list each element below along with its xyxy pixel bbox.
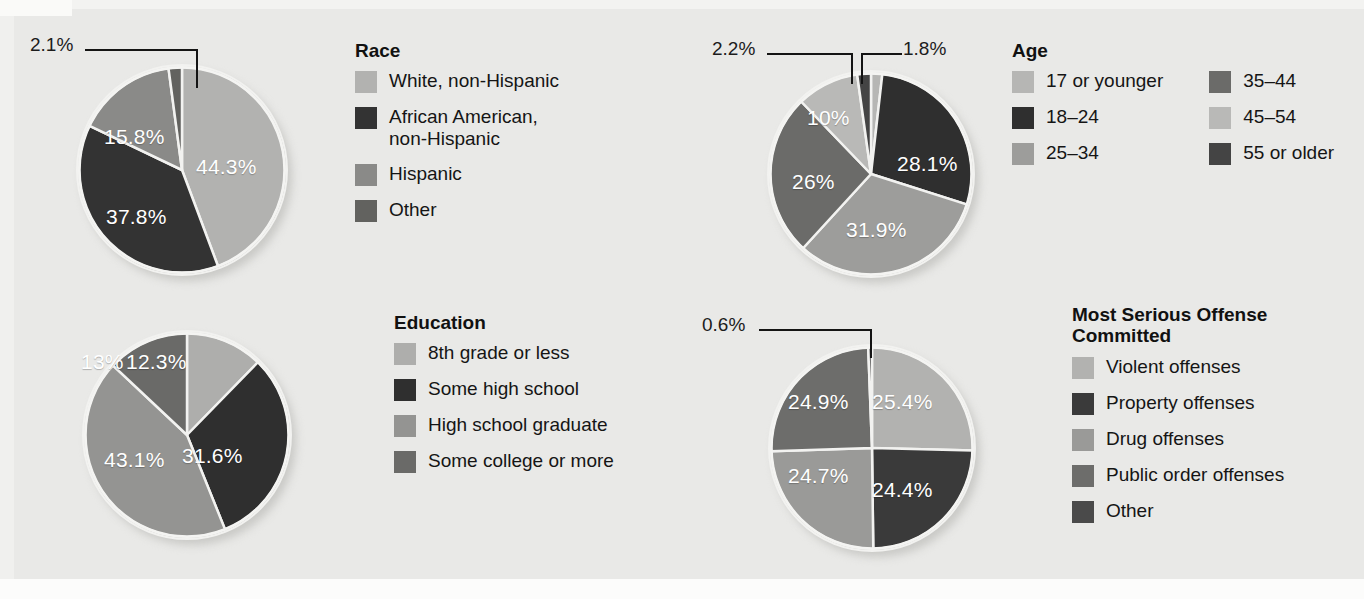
race-legend-item[interactable]: White, non-Hispanic: [355, 70, 559, 93]
age-legend-title: Age: [1012, 40, 1334, 61]
age-pie-chart: [767, 70, 977, 280]
race-legend-item[interactable]: African American, non-Hispanic: [355, 106, 559, 149]
age-legend-label: 45–54: [1243, 106, 1296, 128]
education-legend-swatch-icon: [394, 343, 416, 365]
age-callout-55-or-older: 2.2%: [712, 38, 755, 60]
offense-legend-item[interactable]: Property offenses: [1072, 392, 1284, 415]
offense-legend-swatch-icon: [1072, 357, 1094, 379]
race-legend-swatch-icon: [355, 71, 377, 93]
education-pie-svg: [84, 332, 290, 538]
offense-legend-swatch-icon: [1072, 465, 1094, 487]
offense-legend-item[interactable]: Drug offenses: [1072, 428, 1284, 451]
age-legend-item[interactable]: 35–44: [1209, 70, 1334, 93]
race-pie-svg: [78, 66, 286, 274]
offense-legend: Most Serious Offense Committed Violent o…: [1072, 304, 1284, 536]
age-pie-svg: [769, 72, 973, 276]
age-pie-disc: [767, 70, 975, 278]
race-pie-disc: [76, 64, 288, 276]
race-pie-chart: [76, 64, 288, 276]
education-legend-item[interactable]: Some high school: [394, 378, 614, 401]
age-legend-label: 25–34: [1046, 142, 1099, 164]
offense-legend-label: Property offenses: [1106, 392, 1255, 414]
age-legend-swatch-icon: [1012, 107, 1034, 129]
race-legend-swatch-icon: [355, 107, 377, 129]
offense-legend-item[interactable]: Other: [1072, 500, 1284, 523]
offense-callout-leader-line: [758, 320, 888, 362]
education-legend-label: High school graduate: [428, 414, 608, 436]
offense-legend-item[interactable]: Public order offenses: [1072, 464, 1284, 487]
age-legend-column-right: 35–4445–5455 or older: [1209, 70, 1334, 178]
offense-legend-column: Violent offensesProperty offensesDrug of…: [1072, 356, 1284, 536]
offense-legend-label: Drug offenses: [1106, 428, 1224, 450]
age-callout-55-or-older-text: 2.2%: [712, 38, 755, 59]
race-callout-other: 2.1%: [30, 34, 73, 56]
age-legend-swatch-icon: [1209, 143, 1231, 165]
panel-race: 44.3% 37.8% 15.8% 2.1% Race White, non-H…: [0, 0, 682, 300]
age-legend-swatch-icon: [1012, 143, 1034, 165]
education-legend-column: 8th grade or lessSome high schoolHigh sc…: [394, 342, 614, 486]
age-legend-column-left: 17 or younger18–2425–34: [1012, 70, 1163, 178]
offense-pie-disc: [768, 344, 976, 552]
offense-legend-swatch-icon: [1072, 429, 1094, 451]
education-legend: Education 8th grade or lessSome high sch…: [394, 312, 614, 486]
offense-callout-other: 0.6%: [702, 314, 745, 336]
education-legend-label: Some college or more: [428, 450, 614, 472]
age-legend-item[interactable]: 18–24: [1012, 106, 1163, 129]
age-legend-item[interactable]: 25–34: [1012, 142, 1163, 165]
offense-legend-label: Public order offenses: [1106, 464, 1284, 486]
offense-callout-other-text: 0.6%: [702, 314, 745, 335]
race-legend-column: White, non-HispanicAfrican American, non…: [355, 70, 559, 234]
panel-age: 28.1% 31.9% 26% 10% 2.2% 1.8% Age 17 or …: [682, 0, 1364, 300]
education-legend-label: 8th grade or less: [428, 342, 570, 364]
age-legend-label: 35–44: [1243, 70, 1296, 92]
education-legend-item[interactable]: 8th grade or less: [394, 342, 614, 365]
education-pie-chart: [82, 330, 294, 542]
panel-education: 12.3% 31.6% 43.1% 13% Education 8th grad…: [0, 300, 682, 599]
age-legend-label: 18–24: [1046, 106, 1099, 128]
race-callout-other-text: 2.1%: [30, 34, 73, 55]
age-legend-swatch-icon: [1209, 71, 1231, 93]
age-legend-label: 17 or younger: [1046, 70, 1163, 92]
race-legend-swatch-icon: [355, 200, 377, 222]
offense-legend-swatch-icon: [1072, 501, 1094, 523]
race-legend-label: Other: [389, 199, 437, 221]
race-legend-label: Hispanic: [389, 163, 462, 185]
panel-offense: 25.4% 24.4% 24.7% 24.9% 0.6% Most Seriou…: [682, 300, 1364, 599]
offense-legend-title: Most Serious Offense Committed: [1072, 304, 1284, 347]
offense-pie-svg: [770, 346, 974, 550]
education-legend-swatch-icon: [394, 379, 416, 401]
race-legend-label: African American, non-Hispanic: [389, 106, 538, 149]
race-legend-item[interactable]: Other: [355, 199, 559, 222]
education-legend-swatch-icon: [394, 451, 416, 473]
offense-legend-swatch-icon: [1072, 393, 1094, 415]
age-legend: Age 17 or younger18–2425–34 35–4445–5455…: [1012, 40, 1334, 178]
race-legend: Race White, non-HispanicAfrican American…: [355, 40, 559, 235]
race-legend-title: Race: [355, 40, 559, 61]
figure-canvas: 44.3% 37.8% 15.8% 2.1% Race White, non-H…: [0, 0, 1364, 599]
education-legend-item[interactable]: High school graduate: [394, 414, 614, 437]
offense-legend-label: Other: [1106, 500, 1154, 522]
age-legend-item[interactable]: 17 or younger: [1012, 70, 1163, 93]
offense-legend-label: Violent offenses: [1106, 356, 1241, 378]
age-legend-item[interactable]: 55 or older: [1209, 142, 1334, 165]
race-callout-leader-line: [84, 40, 214, 92]
race-legend-swatch-icon: [355, 164, 377, 186]
age-legend-swatch-icon: [1012, 71, 1034, 93]
education-legend-title: Education: [394, 312, 614, 333]
offense-pie-slice[interactable]: [771, 347, 872, 451]
offense-pie-chart: [768, 344, 978, 554]
race-legend-label: White, non-Hispanic: [389, 70, 559, 92]
education-legend-item[interactable]: Some college or more: [394, 450, 614, 473]
education-legend-swatch-icon: [394, 415, 416, 437]
offense-legend-item[interactable]: Violent offenses: [1072, 356, 1284, 379]
age-callout-17-leader-line: [860, 44, 920, 86]
age-legend-item[interactable]: 45–54: [1209, 106, 1334, 129]
age-legend-swatch-icon: [1209, 107, 1231, 129]
education-legend-label: Some high school: [428, 378, 579, 400]
age-legend-label: 55 or older: [1243, 142, 1334, 164]
education-pie-disc: [82, 330, 292, 540]
race-legend-item[interactable]: Hispanic: [355, 163, 559, 186]
